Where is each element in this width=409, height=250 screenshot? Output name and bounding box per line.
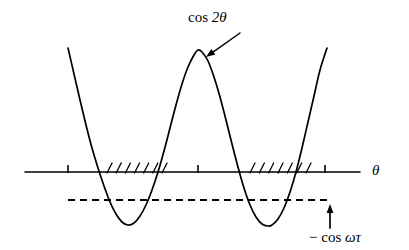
curve-arrow-head — [206, 49, 215, 57]
threshold-label-arg: ωτ — [345, 229, 361, 245]
axis-label-theta: θ — [372, 163, 379, 178]
curve-arrow-shaft — [213, 33, 240, 52]
threshold-annotation-arrow — [327, 204, 334, 228]
figure-container: cos 2θ θ − cos ωτ — [0, 0, 409, 250]
threshold-label: − cos ωτ — [309, 230, 361, 245]
curve-label-arg: 2θ — [212, 9, 227, 25]
threshold-label-sign: − — [309, 229, 317, 245]
threshold-label-fn: cos — [321, 229, 341, 245]
plot-canvas — [0, 0, 409, 250]
threshold-arrow-head — [327, 204, 334, 213]
curve-label-fn: cos — [188, 9, 208, 25]
curve-label: cos 2θ — [188, 10, 227, 25]
curve-annotation-arrow — [206, 33, 240, 57]
annotation-arrow-group — [206, 33, 333, 228]
